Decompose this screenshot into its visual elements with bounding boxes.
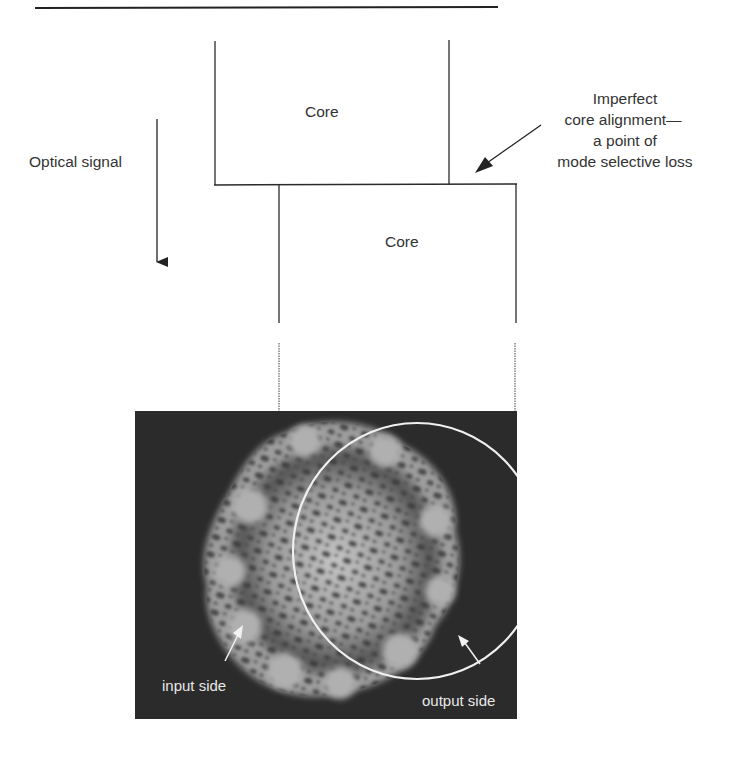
lower-core-label: Core (385, 232, 419, 252)
input-side-label: input side (162, 677, 226, 694)
lower-fiber-core (279, 184, 516, 323)
upper-core-label: Core (305, 102, 339, 122)
upper-fiber-core (214, 40, 517, 185)
output-side-label: output side (422, 692, 495, 709)
output-side-arrow (458, 635, 480, 664)
misalignment-annotation: Imperfect core alignment— a point of mod… (540, 88, 710, 172)
top-rule (35, 7, 498, 8)
optical-signal-label: Optical signal (29, 152, 122, 172)
annotation-line-4: mode selective loss (540, 151, 710, 172)
annotation-line-2: core alignment— (536, 109, 710, 130)
speckle-image (135, 411, 517, 719)
misalignment-arrow (475, 125, 541, 173)
annotation-line-1: Imperfect (540, 88, 710, 109)
speckle-pattern-photo: input side output side (135, 411, 517, 719)
annotation-line-3: a point of (540, 130, 710, 151)
